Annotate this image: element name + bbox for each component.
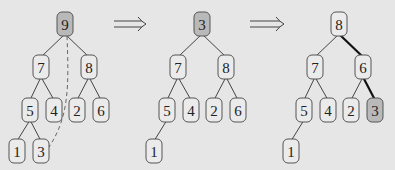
heap-node-5: 5 <box>159 98 175 122</box>
svg-text:1: 1 <box>13 144 21 160</box>
svg-text:4: 4 <box>187 103 195 119</box>
heap-node-1: 1 <box>283 139 299 163</box>
svg-text:2: 2 <box>73 103 81 119</box>
heap-node-8: 8 <box>81 55 97 79</box>
heap-node-3: 3 <box>33 139 49 163</box>
tree-edge <box>30 120 41 141</box>
svg-text:3: 3 <box>371 103 379 119</box>
svg-text:8: 8 <box>222 60 230 76</box>
svg-text:4: 4 <box>50 103 58 119</box>
svg-text:5: 5 <box>26 103 34 119</box>
tree-edge <box>315 77 328 100</box>
svg-text:9: 9 <box>61 17 69 33</box>
svg-text:1: 1 <box>287 144 295 160</box>
heap-node-7: 7 <box>33 55 49 79</box>
tree-edge <box>30 77 41 100</box>
svg-text:3: 3 <box>198 17 206 33</box>
tree-edge <box>291 120 304 141</box>
tree-edge <box>315 34 339 57</box>
svg-text:6: 6 <box>359 60 367 76</box>
tree-edge <box>17 120 30 141</box>
swap-path-dashed <box>49 36 68 147</box>
tree-edge <box>351 77 363 100</box>
heap-node-2: 2 <box>69 98 85 122</box>
heap-node-6: 6 <box>93 98 109 122</box>
nodes-layer: 9785426133785426187654231 <box>9 12 383 163</box>
svg-text:2: 2 <box>347 103 355 119</box>
sift-path-edge <box>363 77 375 100</box>
heap-node-2: 2 <box>343 98 359 122</box>
edges-layer <box>17 34 375 147</box>
heap-node-4: 4 <box>320 98 336 122</box>
heap-node-4: 4 <box>46 98 62 122</box>
svg-text:3: 3 <box>37 144 45 160</box>
heap-node-2: 2 <box>206 98 222 122</box>
tree-edge <box>154 120 167 141</box>
heap-node-9-highlighted: 9 <box>57 12 73 36</box>
tree-edge <box>41 34 65 57</box>
tree-edge <box>41 77 54 100</box>
svg-text:5: 5 <box>300 103 308 119</box>
svg-text:8: 8 <box>85 60 93 76</box>
heap-node-3-highlighted: 3 <box>367 98 383 122</box>
heap-node-4: 4 <box>183 98 199 122</box>
heap-node-7: 7 <box>307 55 323 79</box>
svg-text:7: 7 <box>37 60 45 76</box>
svg-text:6: 6 <box>97 103 105 119</box>
svg-text:2: 2 <box>210 103 218 119</box>
svg-text:4: 4 <box>324 103 332 119</box>
heap-node-6: 6 <box>355 55 371 79</box>
svg-text:7: 7 <box>174 60 182 76</box>
heap-node-8: 8 <box>331 12 347 36</box>
implies-arrow-icon <box>114 17 146 31</box>
implies-arrow-icon <box>250 17 284 31</box>
svg-text:6: 6 <box>234 103 242 119</box>
svg-text:1: 1 <box>150 144 158 160</box>
sift-path-edge <box>339 34 363 57</box>
svg-text:5: 5 <box>163 103 171 119</box>
heap-node-1: 1 <box>146 139 162 163</box>
svg-text:8: 8 <box>335 17 343 33</box>
tree-edge <box>178 77 191 100</box>
tree-edge <box>226 77 238 100</box>
tree-edge <box>77 77 89 100</box>
heap-diagram: 9785426133785426187654231 <box>0 0 395 170</box>
tree-edge <box>89 77 101 100</box>
svg-text:7: 7 <box>311 60 319 76</box>
tree-edge <box>178 34 202 57</box>
heap-node-3-highlighted: 3 <box>194 12 210 36</box>
tree-edge <box>202 34 226 57</box>
heap-node-7: 7 <box>170 55 186 79</box>
tree-edge <box>304 77 315 100</box>
heap-node-5: 5 <box>22 98 38 122</box>
tree-edge <box>167 77 178 100</box>
heap-node-5: 5 <box>296 98 312 122</box>
heap-node-6: 6 <box>230 98 246 122</box>
tree-edge <box>65 34 89 57</box>
heap-node-8: 8 <box>218 55 234 79</box>
heap-node-1: 1 <box>9 139 25 163</box>
tree-edge <box>214 77 226 100</box>
